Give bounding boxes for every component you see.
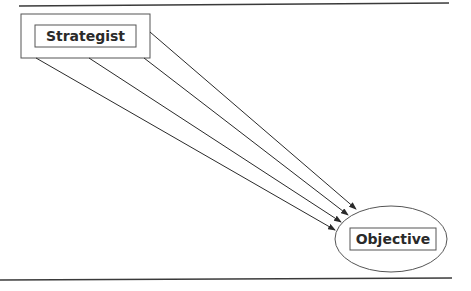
diagram-canvas: Strategist Objective [0,0,471,291]
objective-node: Objective [335,206,447,272]
arrow-2 [144,58,348,215]
objective-label: Objective [356,231,431,247]
strategist-label: Strategist [46,28,125,44]
top-rule [19,3,449,6]
influence-arrows [36,32,356,230]
arrow-3 [89,58,341,222]
bottom-rule [0,278,452,280]
strategist-node: Strategist [21,14,150,58]
arrow-4 [36,58,335,230]
